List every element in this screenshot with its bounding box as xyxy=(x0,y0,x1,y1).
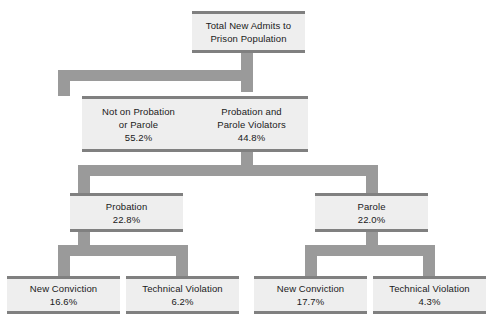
connector-to-probation xyxy=(78,165,90,193)
connector-violators-horizontal xyxy=(78,165,378,176)
node-parole-technical-violation-label: Technical Violation xyxy=(389,282,469,295)
node-not-on-probation-or-parole-percent: 55.2% xyxy=(125,131,152,144)
node-parole-technical-violation-percent: 4.3% xyxy=(418,295,440,308)
node-probation-and-parole-violators-percent: 44.8% xyxy=(238,131,265,144)
flowchart-canvas: Total New Admits to Prison Population No… xyxy=(0,0,495,319)
node-not-on-probation-or-parole-line2: or Parole xyxy=(119,118,158,131)
connector-parole-horizontal xyxy=(305,245,435,256)
node-probation-and-parole-violators-line1: Probation and xyxy=(221,105,281,118)
node-total-new-admits[interactable]: Total New Admits to Prison Population xyxy=(192,11,305,53)
node-probation-new-conviction[interactable]: New Conviction 16.6% xyxy=(7,276,120,314)
node-probation-and-parole-violators[interactable]: Probation and Parole Violators 44.8% xyxy=(195,96,308,152)
node-total-new-admits-line1: Total New Admits to xyxy=(206,19,291,32)
node-parole-percent: 22.0% xyxy=(358,213,385,226)
node-parole-new-conviction-label: New Conviction xyxy=(277,282,344,295)
node-not-on-probation-or-parole-line1: Not on Probation xyxy=(102,105,175,118)
connector-to-parole-new-conviction xyxy=(305,245,317,276)
node-probation[interactable]: Probation 22.8% xyxy=(70,193,183,232)
node-probation-technical-violation-label: Technical Violation xyxy=(142,282,222,295)
node-not-on-probation-or-parole[interactable]: Not on Probation or Parole 55.2% xyxy=(82,96,195,152)
connector-to-probation-technical-violation xyxy=(176,245,188,276)
node-total-new-admits-line2: Prison Population xyxy=(210,32,286,45)
node-probation-technical-violation-percent: 6.2% xyxy=(171,295,193,308)
node-probation-label: Probation xyxy=(106,200,148,213)
node-probation-percent: 22.8% xyxy=(113,213,140,226)
connector-root-horizontal xyxy=(58,70,253,81)
connector-to-probation-new-conviction xyxy=(58,245,70,276)
node-probation-new-conviction-label: New Conviction xyxy=(30,282,97,295)
node-parole-new-conviction[interactable]: New Conviction 17.7% xyxy=(254,276,367,314)
node-parole[interactable]: Parole 22.0% xyxy=(315,193,428,232)
node-probation-technical-violation[interactable]: Technical Violation 6.2% xyxy=(126,276,239,314)
connector-probation-horizontal xyxy=(58,245,188,256)
node-parole-label: Parole xyxy=(357,200,385,213)
node-parole-technical-violation[interactable]: Technical Violation 4.3% xyxy=(373,276,486,314)
connector-to-parole xyxy=(366,165,378,193)
node-parole-new-conviction-percent: 17.7% xyxy=(297,295,324,308)
connector-to-not-on-supervision xyxy=(58,70,70,96)
node-probation-new-conviction-percent: 16.6% xyxy=(50,295,77,308)
node-probation-and-parole-violators-line2: Parole Violators xyxy=(217,118,286,131)
connector-to-parole-technical-violation xyxy=(423,245,435,276)
